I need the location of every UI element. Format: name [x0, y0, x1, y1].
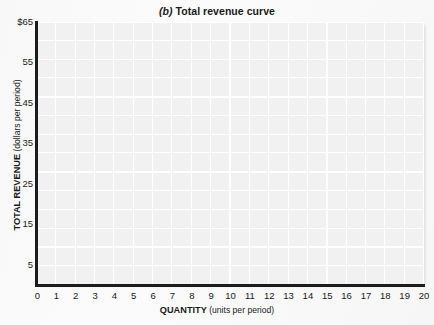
x-axis-tick-label: 8 — [182, 291, 202, 301]
x-axis-tick-label: 5 — [124, 291, 144, 301]
x-axis-tick-label: 9 — [201, 291, 221, 301]
y-axis-title-main: TOTAL REVENUE — [12, 154, 22, 231]
x-axis-line — [35, 284, 425, 287]
y-axis-tick-label: $65 — [0, 17, 33, 27]
x-axis-tick-label: 18 — [375, 291, 395, 301]
x-axis-tick-label: 1 — [46, 291, 66, 301]
y-axis-title-units-text: (dollars per period) — [12, 79, 22, 151]
x-axis-tick-label: 6 — [143, 291, 163, 301]
chart-title: (b) Total revenue curve — [0, 5, 434, 17]
plot-area — [37, 22, 424, 285]
x-axis-title-main: QUANTITY — [160, 305, 207, 315]
major-gridlines — [37, 22, 424, 285]
x-axis-tick-label: 19 — [395, 291, 415, 301]
y-axis-title: TOTAL REVENUE (dollars per period) — [12, 40, 22, 270]
x-axis-tick-label: 11 — [240, 291, 260, 301]
x-axis-tick-label: 13 — [279, 291, 299, 301]
x-axis-tick-label: 15 — [317, 291, 337, 301]
x-axis-tick-label: 17 — [356, 291, 376, 301]
x-axis-tick-label: 2 — [66, 291, 86, 301]
x-axis-tick-label: 16 — [337, 291, 357, 301]
chart-page: (b) Total revenue curve $65554535251550 … — [0, 0, 434, 325]
x-axis-tick-label: 3 — [85, 291, 105, 301]
x-axis-tick-label: 10 — [221, 291, 241, 301]
x-axis-tick-label: 14 — [298, 291, 318, 301]
x-axis-tick-label: 20 — [414, 291, 434, 301]
x-axis-tick-label: 12 — [259, 291, 279, 301]
y-axis-line — [35, 21, 38, 287]
chart-title-text: Total revenue curve — [173, 5, 275, 17]
x-axis-title: QUANTITY (units per period) — [0, 305, 434, 315]
chart-part-label: (b) — [159, 5, 173, 17]
x-axis-title-units-text: (units per period) — [209, 305, 274, 315]
x-axis-tick-label: 7 — [162, 291, 182, 301]
x-axis-tick-labels: 1234567891011121314151617181920 — [0, 291, 434, 303]
x-axis-tick-label: 4 — [104, 291, 124, 301]
